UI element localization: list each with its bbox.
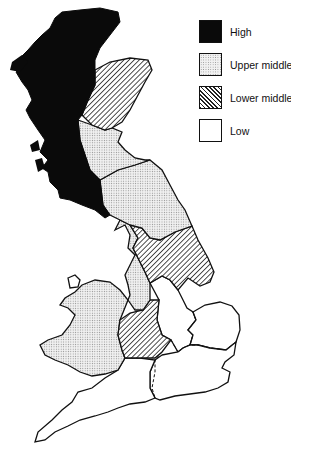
region-wales: [40, 280, 128, 376]
legend-label: High: [230, 26, 252, 38]
legend-label: Upper middle: [230, 59, 291, 71]
region-east-anglia: [188, 302, 240, 350]
legend-swatch-solid: [199, 20, 222, 43]
anglesey: [68, 275, 80, 288]
legend-label: Lower middle: [230, 92, 291, 104]
island-arran: [35, 158, 45, 172]
legend-item-low: Low: [199, 119, 249, 142]
legend-item-lower-middle: Lower middle: [199, 86, 291, 109]
legend-label: Low: [230, 125, 249, 137]
legend-item-high: High: [199, 20, 252, 43]
island-islay: [30, 140, 40, 152]
legend-swatch-hatched: [199, 86, 222, 109]
legend-swatch-empty: [199, 119, 222, 142]
legend-item-upper-middle: Upper middle: [199, 53, 291, 76]
legend-swatch-dotted: [199, 53, 222, 76]
